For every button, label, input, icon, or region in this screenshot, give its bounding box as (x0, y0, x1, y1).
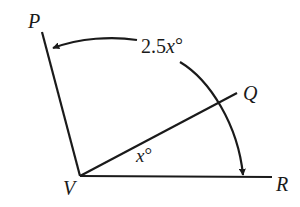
angle-label-outer: 2.5x° (141, 34, 183, 57)
point-label-r: R (275, 173, 288, 195)
point-label-p: P (27, 10, 40, 32)
point-label-q: Q (243, 82, 258, 104)
angle-label-inner: x° (135, 144, 152, 166)
point-label-v: V (63, 177, 78, 199)
ray-vr (80, 176, 272, 177)
ray-vp (42, 32, 80, 176)
ray-vq (80, 93, 237, 176)
angle-arc-to-p (53, 38, 137, 48)
angle-diagram: P Q R V 2.5x° x° (0, 0, 300, 207)
